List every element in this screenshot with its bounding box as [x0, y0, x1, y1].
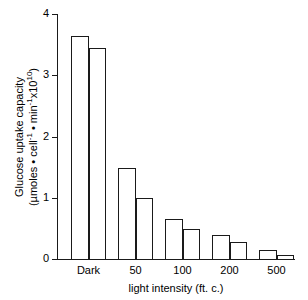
y-unit-sup-2: -1 — [25, 98, 34, 105]
y-axis-title: Glucose uptake capacity (µmoles • cell-1… — [8, 14, 44, 260]
y-tick-0: 0 — [52, 259, 57, 260]
bar-series-group — [57, 14, 295, 259]
bar-100-bar-1 — [165, 219, 183, 259]
y-unit-sup-1: -1 — [25, 133, 34, 140]
y-unit-prefix: (µmoles • cell — [27, 140, 39, 206]
x-axis-title: light intensity (ft. c.) — [57, 281, 295, 295]
bar-200-bar-2 — [230, 242, 248, 259]
y-unit-sup-3: 10 — [25, 72, 34, 81]
y-tick-label-2: 2 — [43, 129, 49, 144]
y-unit-x10: x10 — [27, 81, 39, 99]
bar-chart-figure: Glucose uptake capacity (µmoles • cell-1… — [0, 0, 308, 300]
bar-500-bar-1 — [259, 250, 277, 259]
x-axis-line — [57, 259, 295, 260]
bar-100-bar-2 — [183, 229, 201, 259]
bar-50-bar-2 — [136, 198, 154, 259]
bar-500-bar-2 — [277, 255, 295, 259]
y-tick-label-3: 3 — [43, 67, 49, 82]
y-unit-suffix: ) — [27, 68, 39, 72]
y-axis-title-line2: (µmoles • cell-1 • min-1x1010) — [26, 68, 40, 206]
bar-200-bar-1 — [212, 235, 230, 260]
bar-50-bar-1 — [118, 168, 136, 259]
bar-Dark-bar-2 — [89, 48, 107, 259]
x-category-label-500: 500 — [245, 263, 308, 277]
y-tick-label-4: 4 — [43, 6, 49, 21]
plot-area: 01234 Dark50100200500 — [57, 14, 295, 259]
bar-Dark-bar-1 — [71, 36, 89, 259]
y-unit-mid: • min — [27, 105, 39, 133]
y-tick-label-0: 0 — [43, 251, 49, 266]
y-axis-title-line1: Glucose uptake capacity — [12, 68, 26, 206]
y-tick-label-1: 1 — [43, 190, 49, 205]
